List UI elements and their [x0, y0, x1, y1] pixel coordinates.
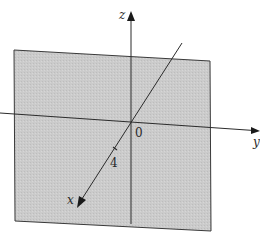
diagram-canvas: z y x 0 4 — [0, 0, 260, 239]
y-axis-arrow-icon — [251, 127, 260, 134]
origin-label: 0 — [135, 126, 143, 140]
x-intercept-label: 4 — [110, 156, 118, 170]
x-axis-label: x — [67, 193, 74, 207]
y-axis-label: y — [252, 135, 260, 149]
z-axis-arrow-icon — [127, 11, 135, 21]
plane-diagram: z y x 0 4 — [0, 0, 260, 239]
plane-x-equals-4 — [14, 50, 211, 231]
z-axis-label: z — [118, 8, 126, 22]
